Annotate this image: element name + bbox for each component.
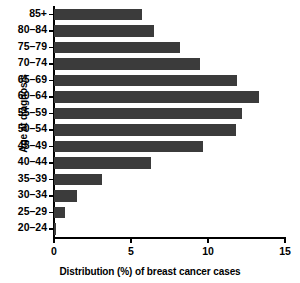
bar-row: 45–49 [54, 139, 285, 154]
bar-chart: Age at diagnosis 20–2425–2930–3435–3940–… [0, 0, 300, 283]
y-axis-tick-label: 65–69 [18, 72, 47, 87]
y-axis-tick-label: 45–49 [18, 138, 47, 153]
bar [54, 25, 154, 37]
y-axis-tick-label: 20–24 [18, 220, 47, 235]
bar-row: 80–84 [54, 23, 285, 38]
y-axis-tick-label: 75–79 [18, 39, 47, 54]
bar-row: 35–39 [54, 172, 285, 187]
y-axis-tick-label: 50–54 [18, 121, 47, 136]
x-axis-tick [207, 237, 209, 243]
bar [54, 223, 56, 235]
y-axis-tick-label: 80–84 [18, 22, 47, 37]
bar [54, 124, 236, 136]
y-axis-tick-label: 40–44 [18, 154, 47, 169]
x-axis-tick-label: 0 [51, 245, 57, 257]
plot-area: 20–2425–2930–3435–3940–4445–4950–5455–59… [54, 6, 285, 237]
bar [54, 91, 259, 103]
x-axis-tick-label: 10 [202, 245, 214, 257]
y-axis-tick-label: 70–74 [18, 55, 47, 70]
bar [54, 75, 237, 87]
bar-row: 20–24 [54, 221, 285, 236]
y-axis-tick-label: 85+ [29, 6, 47, 21]
bar-row: 65–69 [54, 73, 285, 88]
bar-row: 70–74 [54, 56, 285, 71]
x-axis-line [53, 237, 285, 239]
bar-row: 40–44 [54, 155, 285, 170]
x-axis-tick [130, 237, 132, 243]
y-axis-tick-label: 60–64 [18, 88, 47, 103]
bar [54, 207, 65, 219]
bar-row: 25–29 [54, 205, 285, 220]
bar-row: 60–64 [54, 89, 285, 104]
bar-row: 75–79 [54, 40, 285, 55]
bar [54, 174, 102, 186]
x-axis-tick-label: 15 [279, 245, 291, 257]
y-axis-tick-label: 25–29 [18, 204, 47, 219]
x-axis-tick-label: 5 [128, 245, 134, 257]
bar [54, 141, 203, 153]
y-axis-tick-label: 30–34 [18, 187, 47, 202]
x-axis-title: Distribution (%) of breast cancer cases [0, 266, 300, 277]
bar-row: 85+ [54, 7, 285, 22]
bar [54, 157, 151, 169]
bar [54, 42, 180, 54]
bar-row: 55–59 [54, 106, 285, 121]
bar-row: 50–54 [54, 122, 285, 137]
y-axis-tick-label: 35–39 [18, 171, 47, 186]
bar-row: 30–34 [54, 188, 285, 203]
bar [54, 58, 200, 70]
bar [54, 9, 142, 21]
x-axis-tick [53, 237, 55, 243]
bar [54, 190, 77, 202]
bar [54, 108, 242, 120]
y-axis-tick-label: 55–59 [18, 105, 47, 120]
x-axis-tick [284, 237, 286, 243]
